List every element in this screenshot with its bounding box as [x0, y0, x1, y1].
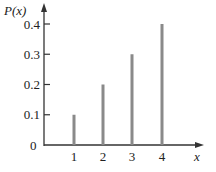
bars — [73, 24, 164, 145]
x-axis-label: x — [193, 149, 200, 164]
x-tick-label: 1 — [71, 149, 78, 164]
y-tick-label: 0.2 — [24, 77, 40, 92]
bar-1 — [73, 115, 76, 145]
x-axis-arrow-icon — [195, 142, 204, 148]
y-axis-arrow-icon — [41, 3, 47, 12]
y-tick-label: 0.3 — [24, 47, 40, 62]
y-ticks: 0.10.20.30.4 — [24, 17, 50, 123]
origin-label: 0 — [30, 138, 37, 153]
x-tick-label: 2 — [100, 149, 107, 164]
bar-3 — [131, 54, 134, 145]
y-tick-label: 0.1 — [24, 107, 40, 122]
y-axis-label: P(x) — [3, 3, 26, 18]
x-tick-label: 3 — [129, 149, 136, 164]
x-ticks: 1234 — [71, 149, 166, 164]
x-tick-label: 4 — [159, 149, 166, 164]
probability-chart: 0.10.20.30.4 1234 P(x) x 0 — [0, 0, 216, 172]
y-tick-label: 0.4 — [24, 17, 41, 32]
bar-4 — [161, 24, 164, 145]
bar-2 — [102, 85, 105, 146]
